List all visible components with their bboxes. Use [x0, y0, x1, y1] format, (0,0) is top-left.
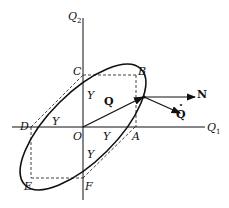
y-label-horizontal-right: Y [103, 130, 112, 143]
point-f-label: F [84, 180, 93, 193]
q-vector-label: Q [104, 95, 114, 108]
y-label-horizontal-left: Y [52, 115, 61, 128]
point-b-label: B [137, 65, 146, 78]
origin-label: O [73, 130, 82, 143]
y-label-vertical-upper: Y [87, 89, 96, 102]
q-dot-vector [144, 97, 180, 113]
y-label-vertical-lower: Y [87, 148, 96, 161]
point-d-label: D [19, 120, 29, 133]
point-a-label: A [131, 130, 140, 143]
n-vector-label: N [197, 88, 207, 101]
q-dot-vector-dot: · [179, 99, 183, 112]
diagram-canvas: Q2 Q1 O A B C D E F Y Y Y Y Q N Q · [0, 0, 229, 208]
q2-axis-label: Q2 [68, 10, 82, 25]
point-c-label: C [73, 65, 82, 78]
q1-axis-label: Q1 [207, 121, 221, 136]
point-e-label: E [23, 180, 32, 193]
yield-ellipse-diagram: Q2 Q1 O A B C D E F Y Y Y Y Q N Q · [0, 0, 229, 208]
